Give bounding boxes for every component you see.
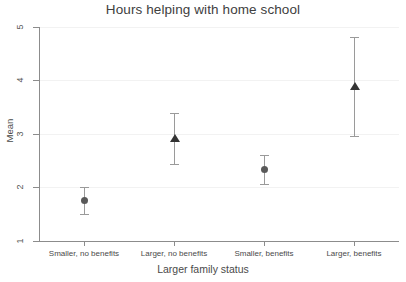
y-tick-2 xyxy=(33,187,39,188)
x-tick-label-2: Smaller, benefits xyxy=(214,249,314,258)
y-tick-label-1: 1 xyxy=(15,230,25,252)
x-tick-3 xyxy=(354,241,355,246)
gridline-y-3 xyxy=(40,134,399,135)
x-axis-title: Larger family status xyxy=(0,263,406,275)
error-bar-cap-low-2 xyxy=(260,184,269,185)
error-bar-cap-low-3 xyxy=(350,136,359,137)
y-tick-label-4: 4 xyxy=(15,69,25,91)
chart-container: Hours helping with home school 5 4 3 2 1… xyxy=(0,0,406,282)
x-tick-2 xyxy=(264,241,265,246)
y-axis-line xyxy=(39,27,40,242)
error-bar-cap-low-1 xyxy=(170,164,179,165)
error-bar-cap-high-0 xyxy=(80,187,89,188)
gridline-y-2 xyxy=(40,187,399,188)
x-tick-label-3: Larger, benefits xyxy=(304,249,404,258)
gridline-y-4 xyxy=(40,80,399,81)
x-tick-label-1: Larger, no benefits xyxy=(124,249,224,258)
y-tick-label-5: 5 xyxy=(15,16,25,38)
error-bar-cap-high-1 xyxy=(170,113,179,114)
y-tick-label-2: 2 xyxy=(15,176,25,198)
data-point-marker-3 xyxy=(350,82,360,90)
chart-title: Hours helping with home school xyxy=(0,2,406,17)
y-tick-label-3: 3 xyxy=(15,123,25,145)
y-tick-5 xyxy=(33,27,39,28)
x-tick-label-0: Smaller, no benefits xyxy=(34,249,134,258)
error-bar-cap-high-3 xyxy=(350,37,359,38)
data-point-marker-1 xyxy=(170,134,180,142)
x-tick-1 xyxy=(174,241,175,246)
y-tick-4 xyxy=(33,80,39,81)
error-bar-cap-low-0 xyxy=(80,214,89,215)
y-tick-3 xyxy=(33,134,39,135)
y-axis-title: Mean xyxy=(4,109,15,153)
gridline-y-5 xyxy=(40,27,399,28)
data-point-marker-0 xyxy=(81,197,88,204)
error-bar-cap-high-2 xyxy=(260,155,269,156)
data-point-marker-2 xyxy=(261,166,268,173)
y-tick-1 xyxy=(33,241,39,242)
x-axis-line xyxy=(39,241,399,242)
x-tick-0 xyxy=(84,241,85,246)
